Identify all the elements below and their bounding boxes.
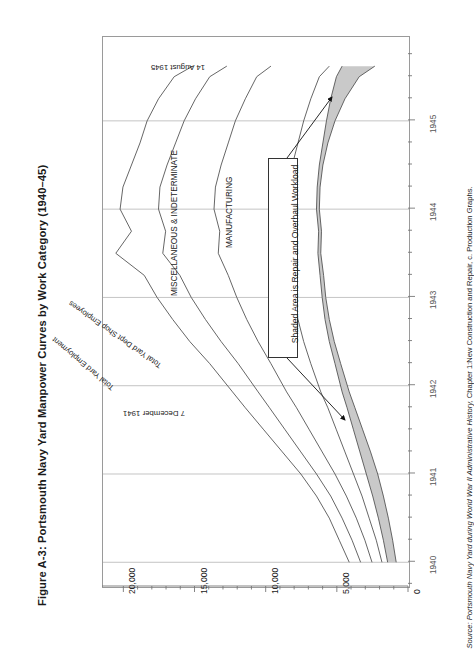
figure-canvas: Figure A-3: Portsmouth Navy Yard Manpowe… xyxy=(0,0,466,656)
axis-tick-layer xyxy=(0,0,466,656)
